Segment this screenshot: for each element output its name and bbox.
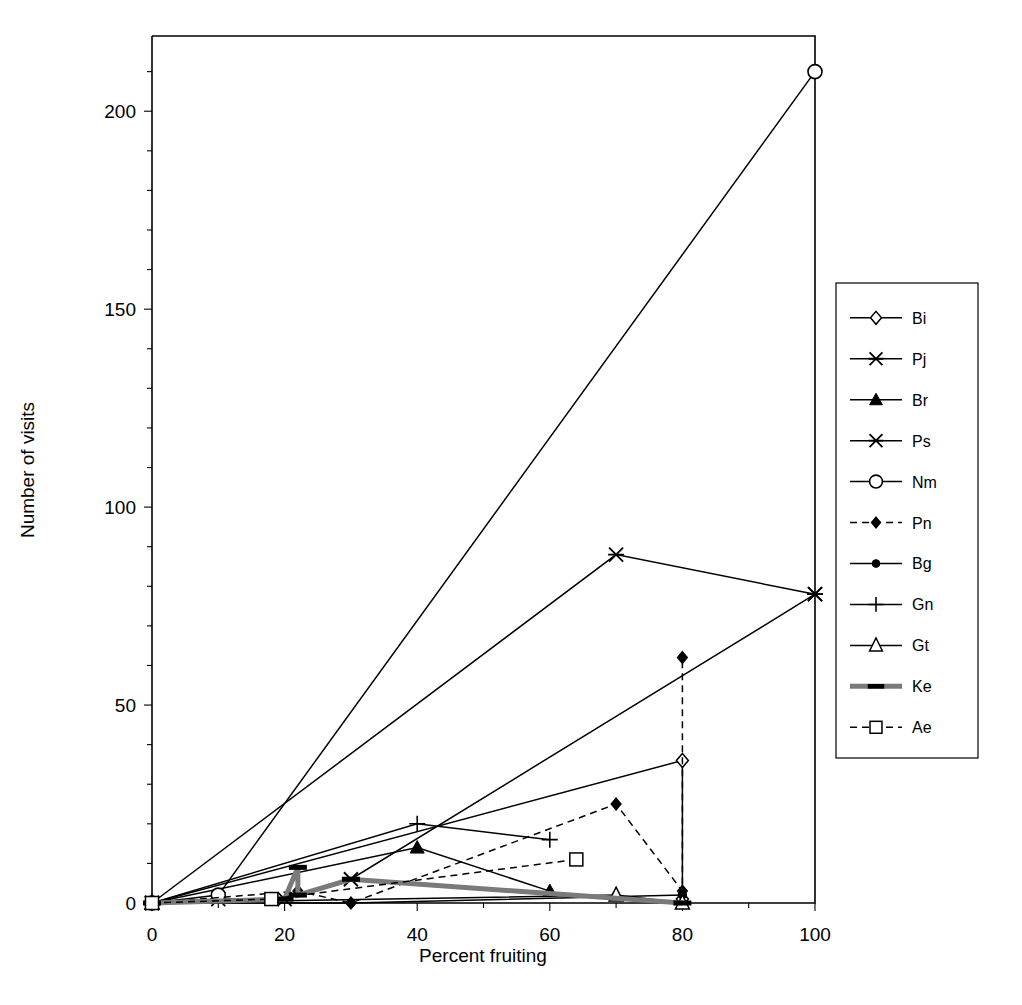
data-point-marker-square-open <box>870 721 882 733</box>
x-tick-label: 60 <box>539 924 560 945</box>
data-point-marker-thick-bar <box>342 877 360 882</box>
legend-label-Nm: Nm <box>912 474 937 491</box>
legend-label-Gn: Gn <box>912 596 933 613</box>
y-tick-label: 150 <box>104 299 136 320</box>
data-point-marker-thick-bar <box>868 684 885 689</box>
chart-legend: BiPjBrPsNmPnBgGnGtKeAe <box>836 283 978 758</box>
x-tick-label: 100 <box>799 924 831 945</box>
legend-label-Ps: Ps <box>912 433 931 450</box>
chart-figure: 020406080100 050100150200 Percent fruiti… <box>0 0 1022 1005</box>
legend-label-Pn: Pn <box>912 515 932 532</box>
data-point-marker-square-open <box>265 893 278 906</box>
legend-label-Br: Br <box>912 392 929 409</box>
x-tick-label: 40 <box>407 924 428 945</box>
y-tick-label: 50 <box>115 695 136 716</box>
legend-label-Bg: Bg <box>912 555 932 572</box>
x-tick-label: 80 <box>672 924 693 945</box>
legend-label-Bi: Bi <box>912 310 926 327</box>
x-tick-label: 0 <box>147 924 158 945</box>
data-point-marker-thick-bar <box>289 865 307 870</box>
x-axis-title: Percent fruiting <box>419 945 547 966</box>
data-point-marker-square-open <box>570 853 583 866</box>
y-tick-label: 100 <box>104 497 136 518</box>
x-tick-label: 20 <box>274 924 295 945</box>
data-point-marker-circle-open <box>870 475 883 488</box>
y-tick-label: 200 <box>104 101 136 122</box>
data-point-marker-thick-bar <box>673 901 691 906</box>
data-point-marker-square-open <box>146 897 159 910</box>
chart-canvas: 020406080100 050100150200 Percent fruiti… <box>0 0 1022 1005</box>
legend-label-Ke: Ke <box>912 678 932 695</box>
data-point-marker-circle-filled <box>872 560 880 568</box>
y-tick-label: 0 <box>125 893 136 914</box>
legend-label-Gt: Gt <box>912 637 929 654</box>
legend-label-Ae: Ae <box>912 719 932 736</box>
y-axis-title: Number of visits <box>17 402 38 538</box>
legend-label-Pj: Pj <box>912 351 926 368</box>
data-point-marker-circle-open <box>808 65 822 79</box>
